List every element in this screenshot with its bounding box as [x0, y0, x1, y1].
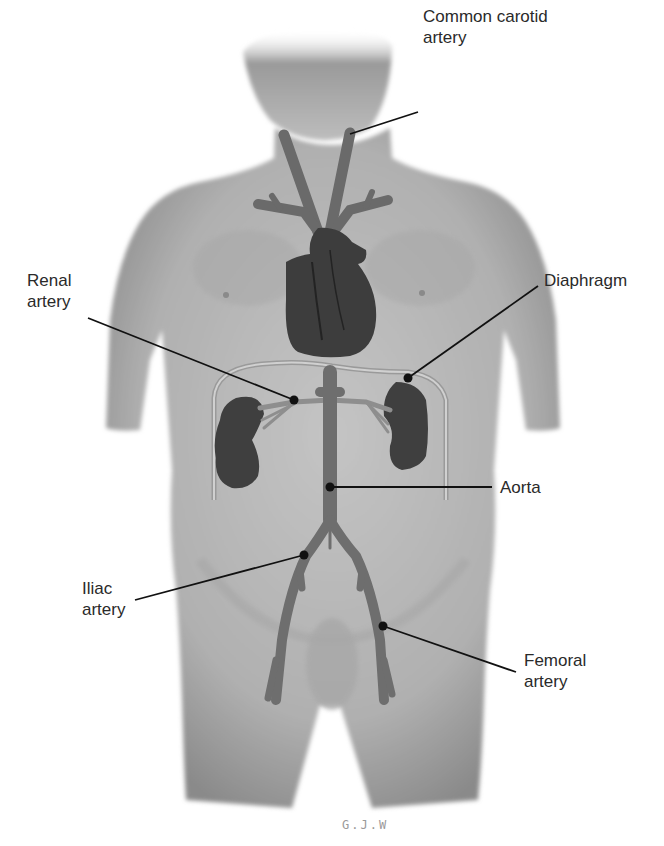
- label-aorta: Aorta: [500, 477, 541, 498]
- label-femoral-artery: Femoral artery: [524, 650, 586, 692]
- anatomy-illustration: [0, 0, 664, 846]
- artist-signature: G.J.W: [342, 818, 388, 832]
- label-iliac-artery: Iliac artery: [82, 578, 125, 620]
- label-renal-artery: Renal artery: [27, 270, 71, 312]
- head: [243, 30, 392, 140]
- label-common-carotid-artery: Common carotid artery: [423, 6, 548, 48]
- label-diaphragm: Diaphragm: [544, 270, 627, 291]
